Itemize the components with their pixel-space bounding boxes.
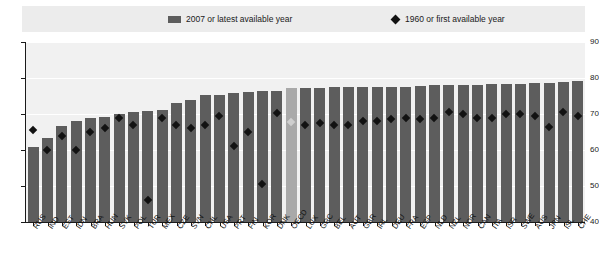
bar-group xyxy=(558,42,569,222)
y-tick-mark xyxy=(21,150,25,151)
bar-group xyxy=(71,42,82,222)
bar-gbr xyxy=(357,87,368,222)
bar-nld xyxy=(429,85,440,222)
bar-can xyxy=(472,85,483,222)
bar-group xyxy=(429,42,440,222)
bar-group xyxy=(357,42,368,222)
bar-group xyxy=(515,42,526,222)
bar-tur xyxy=(142,111,153,222)
y-tick-mark xyxy=(21,78,25,79)
bars-layer xyxy=(26,42,585,222)
y-tick-mark xyxy=(21,222,25,223)
bar-group xyxy=(271,42,282,222)
bar-deu xyxy=(386,87,397,222)
bar-group xyxy=(243,42,254,222)
x-axis-tick-labels: RUSINDESTIDNBRAHUNSVKPOLTURMEXCZESVNCHLU… xyxy=(0,226,599,259)
bar-bel xyxy=(329,87,340,222)
bar-group xyxy=(572,42,583,222)
bar-hun xyxy=(99,117,110,222)
bar-swe xyxy=(515,84,526,222)
bar-group xyxy=(300,42,311,222)
bar-group xyxy=(372,42,383,222)
bar-group xyxy=(343,42,354,222)
bar-group xyxy=(501,42,512,222)
legend-bar-swatch-icon xyxy=(168,16,181,23)
bar-group xyxy=(329,42,340,222)
bar-aus xyxy=(529,83,540,222)
bar-group xyxy=(228,42,239,222)
bar-group xyxy=(56,42,67,222)
bar-group xyxy=(400,42,411,222)
bar-group xyxy=(200,42,211,222)
bar-isl xyxy=(558,82,569,222)
bar-group xyxy=(85,42,96,222)
bar-rus xyxy=(28,147,39,222)
bar-grc xyxy=(314,88,325,222)
legend-diamond-label: 1960 or first available year xyxy=(405,14,505,24)
bar-group xyxy=(415,42,426,222)
bar-oecd xyxy=(286,88,297,222)
bar-chl xyxy=(200,95,211,222)
bar-group xyxy=(314,42,325,222)
bar-aut xyxy=(343,87,354,222)
bar-group xyxy=(472,42,483,222)
bar-nzl xyxy=(443,85,454,222)
bar-group xyxy=(42,42,53,222)
bar-prt xyxy=(228,93,239,222)
bar-est xyxy=(56,126,67,222)
bar-kor xyxy=(257,91,268,222)
bar-group xyxy=(214,42,225,222)
legend-item-diamond: 1960 or first available year xyxy=(392,6,505,32)
bar-fin xyxy=(243,92,254,222)
bar-group xyxy=(529,42,540,222)
bar-svn xyxy=(185,100,196,222)
bar-group xyxy=(171,42,182,222)
legend-diamond-swatch-icon xyxy=(391,14,401,24)
bar-group xyxy=(443,42,454,222)
bar-group xyxy=(544,42,555,222)
bar-svk xyxy=(114,114,125,222)
chart-container: 2007 or latest available year 1960 or fi… xyxy=(0,0,599,259)
bar-mex xyxy=(157,110,168,222)
bar-group xyxy=(114,42,125,222)
bar-jpn xyxy=(544,83,555,222)
bar-esp xyxy=(415,86,426,222)
bar-group xyxy=(185,42,196,222)
y-tick-mark xyxy=(21,42,25,43)
bar-group xyxy=(28,42,39,222)
y-tick-mark xyxy=(21,114,25,115)
bar-nor xyxy=(458,85,469,222)
bar-irl xyxy=(372,87,383,222)
bar-group xyxy=(99,42,110,222)
bar-isr xyxy=(501,84,512,222)
legend-bar-label: 2007 or latest available year xyxy=(186,14,292,24)
bar-lux xyxy=(300,88,311,222)
bar-che xyxy=(572,81,583,222)
diamond-rus xyxy=(29,126,37,134)
legend-item-bar: 2007 or latest available year xyxy=(168,6,292,32)
bar-group xyxy=(458,42,469,222)
bar-idn xyxy=(71,121,82,222)
bar-group xyxy=(142,42,153,222)
bar-group xyxy=(257,42,268,222)
bar-group xyxy=(157,42,168,222)
bar-group xyxy=(386,42,397,222)
bar-ita xyxy=(486,84,497,222)
chart-legend: 2007 or latest available year 1960 or fi… xyxy=(22,6,585,32)
bar-group xyxy=(486,42,497,222)
bar-group xyxy=(128,42,139,222)
bar-group xyxy=(286,42,297,222)
y-tick-mark xyxy=(21,186,25,187)
bar-fra xyxy=(400,87,411,222)
